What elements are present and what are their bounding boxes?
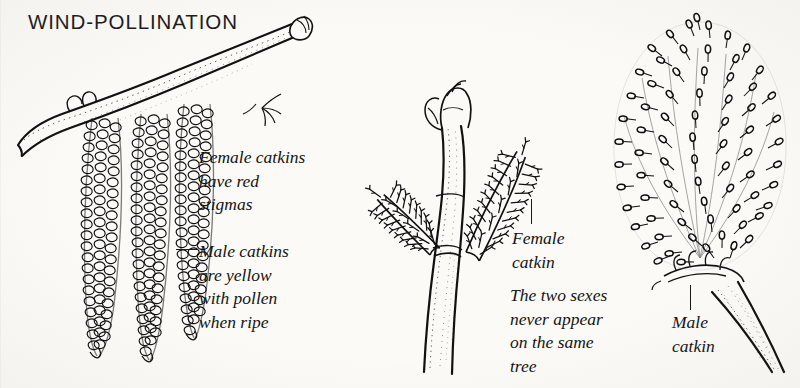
caption-two-sexes-note: The two sexes never appear on the same t…: [510, 284, 607, 378]
hanging-catkin: [131, 114, 170, 362]
twig-branch: [18, 16, 312, 156]
leader-male-catkin-right: [690, 285, 691, 310]
leader-female-catkin-middle: [531, 199, 532, 224]
caption-female-catkin-middle: Female catkin: [512, 227, 564, 274]
female-spray-stalk: [424, 81, 471, 374]
caption-male-catkin-right: Male catkin: [672, 311, 715, 358]
page-title: WIND-POLLINATION: [28, 10, 238, 34]
wind-pollination-illustration-page: WIND-POLLINATION Female catkins have red…: [0, 0, 800, 388]
caption-female-catkins-left: Female catkins have red stigmas: [199, 146, 305, 217]
hanging-catkin: [81, 118, 121, 358]
caption-male-catkins-left: Male catkins are yellow with pollen when…: [199, 240, 289, 334]
male-catkin-body: [613, 13, 786, 270]
leader-male-catkins-left: [176, 249, 198, 250]
